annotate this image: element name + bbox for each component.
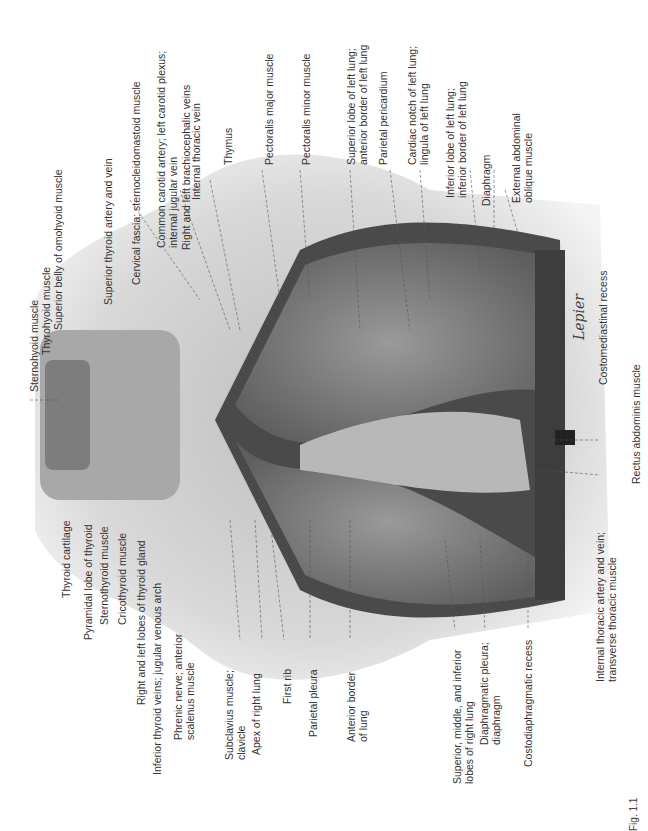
label-common-carotid: Common carotid artery; left carotid plex…	[155, 51, 179, 248]
label-omohyoid: Superior belly of omohyoid muscle	[52, 170, 64, 331]
label-apex-right-lung: Apex of right lung	[250, 673, 262, 755]
larynx	[45, 360, 90, 470]
label-phrenic-nerve: Phrenic nerve; anterior scalenus muscle	[172, 634, 196, 740]
label-first-rib: First rib	[281, 669, 293, 704]
label-cricothyroid: Cricothyroid muscle	[116, 533, 128, 625]
label-superior-thyroid: Superior thyroid artery and vein	[102, 159, 114, 306]
label-thyrohyoid: Thyrohyoid muscle	[40, 267, 52, 355]
figure-caption: Fig. 1.1	[628, 798, 639, 831]
label-thymus: Thymus	[222, 128, 234, 165]
label-superior-lobe-left: Superior lobe of left lung; anterior bor…	[345, 45, 369, 165]
xiphoid	[555, 430, 575, 445]
label-pyramidal-lobe: Pyramidal lobe of thyroid	[82, 524, 94, 640]
label-pectoralis-major: Pectoralis major muscle	[263, 54, 275, 165]
label-anterior-border: Anterior border of lung	[345, 672, 369, 742]
label-diaphragmatic-pleura: Diaphragmatic pleura; diaphragm	[478, 642, 502, 745]
label-inferior-thyroid-veins: Inferior thyroid veins; jugular venous a…	[151, 583, 163, 775]
label-thyroid-cartilage: Thyroid cartilage	[60, 520, 72, 598]
label-right-lung-lobes: Superior, middle, and inferior lobes of …	[451, 650, 475, 784]
label-diaphragm: Diaphragm	[480, 155, 492, 206]
label-thyroid-lobes: Right and left lobes of thyroid gland	[135, 540, 147, 705]
label-sternohyoid: Sternohyoid muscle	[28, 300, 40, 392]
label-external-oblique: External abdominal oblique muscle	[510, 113, 534, 203]
label-internal-thoracic-artery: Internal thoracic artery and vein; trans…	[594, 532, 618, 682]
anatomy-figure: Sternohyoid muscle Thyrohyoid muscle Sup…	[0, 0, 648, 831]
label-parietal-pleura: Parietal pleura	[307, 669, 319, 737]
label-sternothyroid: Sternothyroid muscle	[98, 526, 110, 625]
label-cervical-fascia: Cervical fascia; sternocleidomastoid mus…	[130, 81, 142, 285]
label-costomediastinal: Costomediastinal recess	[597, 271, 609, 385]
label-pectoralis-minor: Pectoralis minor muscle	[300, 54, 312, 165]
label-rectus-abdominis: Rectus abdominis muscle	[630, 364, 642, 484]
label-subclavius: Subclavius muscle; clavicle	[223, 670, 247, 760]
label-cardiac-notch: Cardiac notch of left lung; lingula of l…	[406, 46, 430, 165]
thorax-illustration	[0, 0, 648, 831]
label-inferior-lobe-left: Inferior lobe of left lung; inferior bor…	[444, 81, 468, 198]
label-internal-thoracic-vein: Internal thoracic vein	[190, 103, 202, 200]
label-parietal-pericardium: Parietal pericardium	[377, 72, 389, 165]
diaphragm-band	[535, 250, 565, 600]
artist-signature: Lepier	[573, 294, 585, 340]
label-costodiaphragmatic: Costodiaphragmatic recess	[522, 640, 534, 767]
